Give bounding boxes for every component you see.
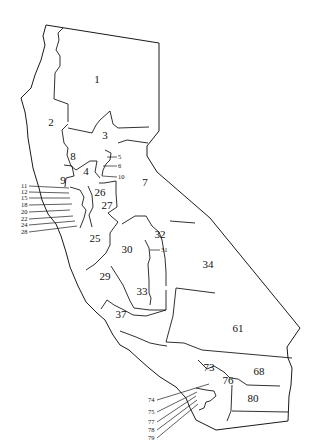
- district-callout-77: 77: [148, 418, 155, 425]
- district-callout-10: 10: [118, 173, 125, 180]
- district-callout-18: 18: [21, 201, 28, 208]
- district-callout-20: 20: [21, 208, 28, 215]
- district-label-9: 9: [60, 174, 66, 186]
- district-callout-31: 31: [161, 246, 168, 253]
- district-label-3: 3: [102, 129, 108, 141]
- district-label-73: 73: [204, 361, 216, 373]
- district-callout-15: 15: [21, 194, 28, 201]
- district-label-32: 32: [155, 228, 166, 240]
- district-label-34: 34: [203, 258, 215, 270]
- district-label-7: 7: [142, 176, 148, 188]
- district-callout-79: 79: [148, 434, 155, 441]
- district-label-29: 29: [100, 270, 112, 282]
- district-callout-78: 78: [148, 426, 155, 433]
- district-callout-74: 74: [148, 396, 155, 403]
- district-label-61: 61: [233, 322, 244, 334]
- district-label-33: 33: [137, 285, 149, 297]
- district-label-76: 76: [223, 374, 235, 386]
- district-label-1: 1: [94, 73, 100, 85]
- district-label-8: 8: [70, 150, 76, 162]
- district-label-30: 30: [122, 243, 134, 255]
- district-label-4: 4: [83, 165, 89, 177]
- district-callout-24: 24: [21, 221, 28, 228]
- district-label-2: 2: [48, 116, 54, 128]
- district-callout-75: 75: [148, 408, 155, 415]
- district-callout-5: 5: [118, 153, 121, 160]
- district-callout-28: 28: [21, 228, 28, 235]
- california-district-map: 1234789252627293032333437616873768011121…: [0, 0, 317, 441]
- district-label-37: 37: [116, 308, 128, 320]
- district-label-26: 26: [95, 186, 107, 198]
- district-label-80: 80: [248, 392, 260, 404]
- district-label-25: 25: [90, 232, 102, 244]
- leader-line: [157, 400, 197, 430]
- district-label-68: 68: [254, 365, 266, 377]
- district-label-27: 27: [102, 199, 114, 211]
